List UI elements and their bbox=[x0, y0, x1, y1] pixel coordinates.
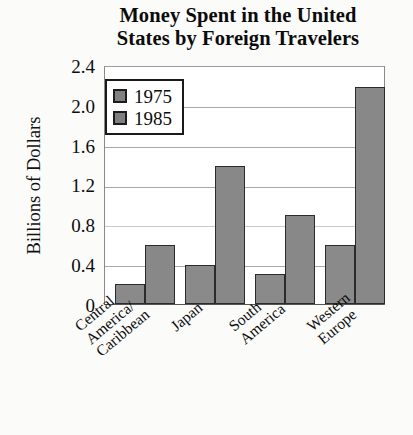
bar-chart-figure: Money Spent in the United States by Fore… bbox=[0, 0, 413, 435]
y-tick-label-1.2: 1.2 bbox=[35, 176, 95, 195]
y-tick-label-0.4: 0.4 bbox=[35, 256, 95, 275]
legend-swatch-icon-1975 bbox=[113, 89, 127, 103]
bar-1985-central-america-caribbean[interactable] bbox=[145, 245, 175, 304]
bar-1985-japan[interactable] bbox=[215, 166, 245, 304]
y-tick-label-1.6: 1.6 bbox=[35, 137, 95, 156]
chart-title: Money Spent in the United States by Fore… bbox=[78, 4, 398, 50]
y-tick-label-2.4: 2.4 bbox=[35, 57, 95, 76]
legend-swatch-icon-1985 bbox=[113, 111, 127, 125]
y-tick-label-0.8: 0.8 bbox=[35, 216, 95, 235]
chart-legend: 1975 1985 bbox=[105, 79, 184, 135]
bar-1985-south-america[interactable] bbox=[285, 215, 315, 304]
chart-title-line-2: States by Foreign Travelers bbox=[78, 27, 398, 50]
legend-label-1975: 1975 bbox=[134, 87, 172, 106]
y-tick-label-2.0: 2.0 bbox=[35, 97, 95, 116]
chart-title-line-1: Money Spent in the United bbox=[78, 4, 398, 27]
legend-label-1985: 1985 bbox=[134, 109, 172, 128]
bar-1975-japan[interactable] bbox=[185, 265, 215, 305]
legend-item-1985[interactable]: 1985 bbox=[113, 107, 172, 129]
legend-item-1975[interactable]: 1975 bbox=[113, 85, 172, 107]
bar-1985-western-europe[interactable] bbox=[355, 87, 385, 304]
